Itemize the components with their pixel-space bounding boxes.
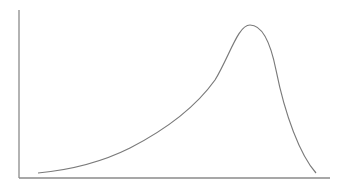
chart-svg — [0, 0, 342, 185]
skewed-curve-figure — [0, 0, 342, 185]
distribution-curve — [38, 25, 316, 173]
